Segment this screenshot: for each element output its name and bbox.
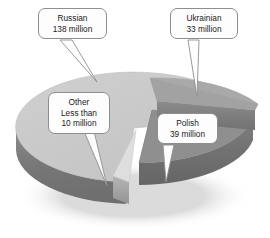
callout-other-line3: 10 million [55, 118, 103, 129]
callout-russian-value: 138 million [45, 24, 100, 35]
tail-other [84, 131, 107, 186]
tail-polish [163, 145, 174, 182]
callout-russian-name: Russian [45, 13, 100, 24]
pie-chart: Russian 138 million Ukrainian 33 million… [0, 0, 270, 238]
callout-other: Other Less than 10 million [48, 92, 110, 134]
callout-ukrainian: Ukrainian 33 million [170, 8, 238, 39]
callout-ukrainian-value: 33 million [177, 24, 231, 35]
tail-ukrainian [188, 40, 199, 97]
callout-other-line2: Less than [55, 108, 103, 119]
callout-russian: Russian 138 million [38, 8, 107, 39]
callout-ukrainian-name: Ukrainian [177, 13, 231, 24]
tail-russian [60, 40, 97, 82]
callout-polish: Polish 39 million [157, 113, 218, 144]
callout-polish-value: 39 million [164, 129, 211, 140]
callout-polish-name: Polish [164, 118, 211, 129]
callout-other-name: Other [55, 97, 103, 108]
